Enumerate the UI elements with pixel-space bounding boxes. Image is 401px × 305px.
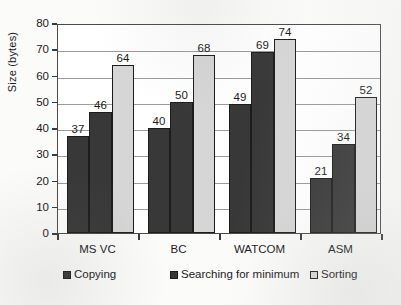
bar-ms-vc-searching-for-minimum <box>89 112 112 233</box>
x-category-label: MS VC <box>53 243 143 256</box>
chart-legend: CopyingSearching for minimumSorting <box>57 268 381 286</box>
bar-value-label: 52 <box>349 84 384 96</box>
y-tick-label: 20 <box>13 176 49 188</box>
y-tick-label: 0 <box>13 228 49 240</box>
x-tick-mark <box>219 234 221 240</box>
bar-bc-sorting <box>193 55 216 234</box>
bar-bc-copying <box>148 128 171 233</box>
y-tick-label: 30 <box>13 149 49 161</box>
bar-asm-copying <box>310 178 333 233</box>
bar-watcom-copying <box>229 104 252 233</box>
bar-watcom-sorting <box>274 39 297 233</box>
y-tick-label: 40 <box>13 123 49 135</box>
x-category-label: BC <box>134 243 224 256</box>
bar-value-label: 68 <box>187 42 222 54</box>
y-tick-label: 50 <box>13 97 49 109</box>
y-tick-label: 10 <box>13 202 49 214</box>
gridline <box>58 78 380 79</box>
y-tick-label: 60 <box>13 71 49 83</box>
x-tick-mark <box>57 234 59 240</box>
bar-ms-vc-sorting <box>112 65 135 233</box>
legend-label: Searching for minimum <box>181 268 299 281</box>
chart-figure: Size (bytes) 01020304050607080 374664405… <box>0 0 401 305</box>
bar-bc-searching-for-minimum <box>170 102 193 233</box>
x-category-label: WATCOM <box>215 243 305 256</box>
legend-item-searching-for-minimum[interactable]: Searching for minimum <box>170 268 299 281</box>
bar-asm-searching-for-minimum <box>332 144 355 233</box>
y-tick-label: 80 <box>13 18 49 30</box>
legend-swatch-icon <box>170 271 178 279</box>
x-category-label: ASM <box>296 243 386 256</box>
legend-item-sorting[interactable]: Sorting <box>310 268 357 281</box>
x-tick-mark <box>300 234 302 240</box>
legend-swatch-icon <box>63 271 71 279</box>
x-tick-mark <box>138 234 140 240</box>
legend-label: Sorting <box>321 268 357 281</box>
bar-value-label: 64 <box>106 52 141 64</box>
y-tick-label: 70 <box>13 44 49 56</box>
bar-watcom-searching-for-minimum <box>251 52 274 233</box>
plot-area: 374664405068496974213452 <box>57 24 381 234</box>
legend-label: Copying <box>74 268 116 281</box>
bar-asm-sorting <box>355 97 378 234</box>
x-tick-mark <box>381 234 383 240</box>
bar-value-label: 74 <box>268 26 303 38</box>
legend-item-copying[interactable]: Copying <box>63 268 116 281</box>
legend-swatch-icon <box>310 271 318 279</box>
bar-ms-vc-copying <box>67 136 90 233</box>
